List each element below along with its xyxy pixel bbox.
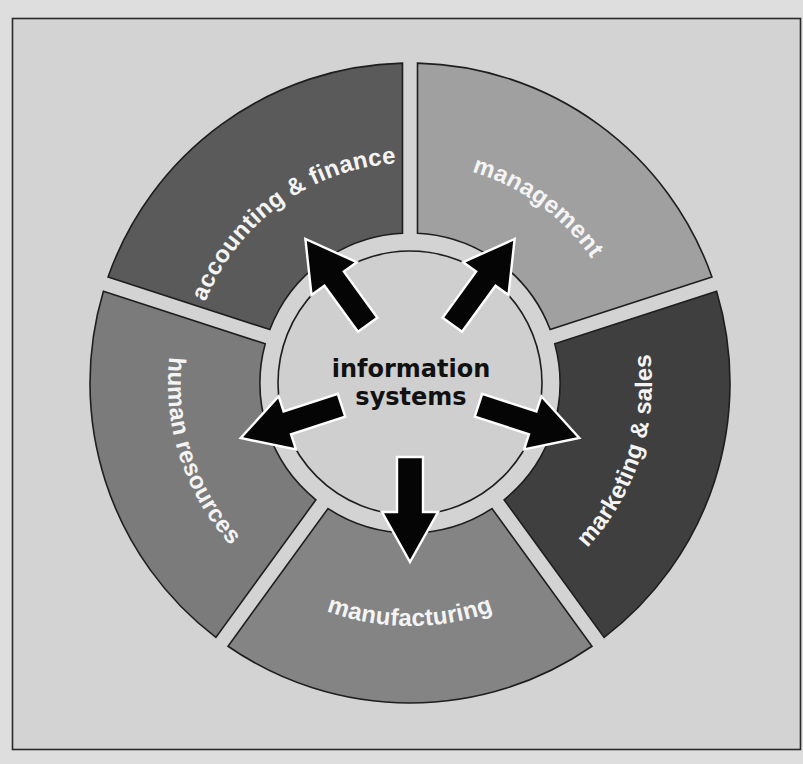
information-systems-diagram: management marketing & sales manufacturi… [0, 0, 803, 764]
hub-label-line2: systems [355, 383, 466, 411]
hub-label-line1: information [332, 355, 491, 383]
